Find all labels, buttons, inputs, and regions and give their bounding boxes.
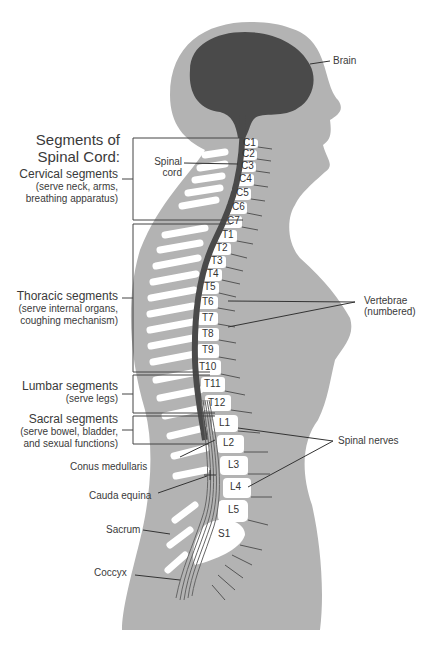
vertebra-label-l4: L4 [230, 481, 241, 492]
label-spinal-nerves: Spinal nerves [338, 435, 399, 446]
vertebra-label-t1: T1 [222, 229, 234, 240]
vertebra-label-t11: T11 [204, 378, 221, 389]
segment-name: Cervical segments [19, 168, 118, 181]
vertebra-label-c3: C3 [241, 160, 254, 171]
label-sacrum: Sacrum [106, 524, 140, 535]
vertebra-label-l5: L5 [228, 504, 239, 515]
segment-lumbar: Lumbar segments (serve legs) [22, 380, 118, 405]
vertebra-label-t9: T9 [202, 344, 214, 355]
segment-name: Thoracic segments [17, 290, 118, 303]
vertebra-label-t10: T10 [199, 361, 216, 372]
vertebra-label-c5: C5 [236, 187, 249, 198]
segment-name: Lumbar segments [22, 380, 118, 393]
vertebra-label-t12: T12 [208, 397, 225, 408]
vertebra-label-t4: T4 [207, 268, 219, 279]
vertebra-label-t6: T6 [202, 296, 214, 307]
vertebra-label-c7: C7 [227, 215, 240, 226]
label-conus-medullaris: Conus medullaris [70, 461, 147, 472]
label-cauda-equina: Cauda equina [89, 490, 151, 501]
segment-cervical: Cervical segments (serve neck, arms, bre… [19, 168, 118, 204]
label-brain: Brain [333, 55, 356, 66]
vertebra-label-s1: S1 [218, 528, 230, 539]
segment-sacral: Sacral segments (serve bowel, bladder, a… [20, 413, 118, 449]
vertebra-label-l2: L2 [223, 437, 234, 448]
label-coccyx: Coccyx [94, 567, 127, 578]
segment-desc: (serve internal organs, [17, 303, 118, 315]
segment-thoracic: Thoracic segments (serve internal organs… [17, 290, 118, 326]
vertebra-label-t7: T7 [202, 312, 214, 323]
segment-desc: (serve neck, arms, [19, 181, 118, 193]
diagram-title: Segments of Spinal Cord: [14, 132, 120, 165]
segment-desc: and sexual functions) [20, 438, 118, 450]
vertebra-label-t8: T8 [202, 328, 214, 339]
vertebra-label-c4: C4 [239, 173, 252, 184]
label-vertebrae: Vertebrae (numbered) [364, 295, 416, 317]
vertebra-label-t3: T3 [211, 255, 223, 266]
vertebra-label-c1: C1 [243, 137, 256, 148]
segment-desc: (serve legs) [22, 393, 118, 405]
label-spinal-cord: Spinal cord [152, 156, 182, 178]
title-line-2: Spinal Cord: [14, 149, 120, 166]
title-line-1: Segments of [14, 132, 120, 149]
segment-desc: (serve bowel, bladder, [20, 426, 118, 438]
vertebra-label-l1: L1 [219, 417, 230, 428]
vertebra-label-c2: C2 [242, 148, 255, 159]
vertebra-label-l3: L3 [228, 459, 239, 470]
vertebra-label-t5: T5 [204, 281, 216, 292]
segment-desc: breathing apparatus) [19, 193, 118, 205]
vertebra-label-c6: C6 [232, 201, 245, 212]
segment-name: Sacral segments [20, 413, 118, 426]
segment-desc: coughing mechanism) [17, 315, 118, 327]
vertebra-label-t2: T2 [216, 242, 228, 253]
